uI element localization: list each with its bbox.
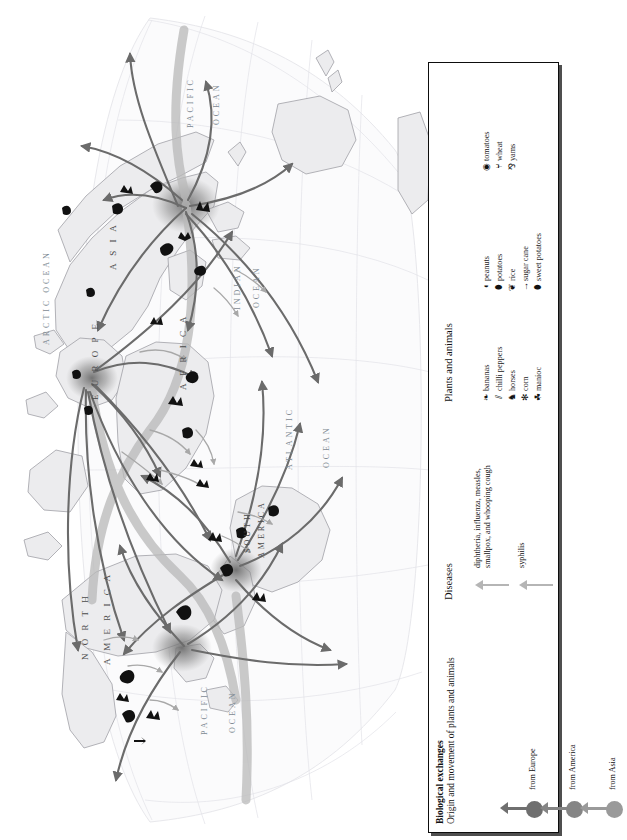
legend-disease-label-1a: diphtheria, influenza, measles, xyxy=(473,468,483,568)
legend-title: Biological exchanges xyxy=(435,657,446,824)
origin-arrow-shaft-europe xyxy=(507,807,529,810)
world-map: ARCTIC OCEANPACIFICOCEANINDIANOCEANATLAN… xyxy=(0,0,430,840)
legend-disease-entry-1[interactable]: diphtheria, influenza, measles, smallpox… xyxy=(475,370,515,590)
yam-icon: ⅋ xyxy=(507,161,517,172)
disease-arrow-shaft-2 xyxy=(525,584,553,586)
sweet-potato-icon: ⬮ xyxy=(533,281,544,292)
origin-arrow-head-america xyxy=(540,803,548,815)
legend-disease-label-2a: syphilis xyxy=(517,543,527,568)
legend-content: Biological exchanges Origin and movement… xyxy=(429,64,557,832)
legend-origin-label-asia: from Asia xyxy=(608,757,618,790)
legend-box: Biological exchanges Origin and movement… xyxy=(428,62,559,833)
legend-origin-asia[interactable]: from Asia xyxy=(601,668,627,818)
legend-plants-heading: Plants and animals xyxy=(443,323,454,402)
manioc-icon: ☘ xyxy=(533,391,543,402)
legend-origin-europe[interactable]: from Europe xyxy=(521,668,551,818)
legend-plant-label: yams xyxy=(508,144,517,161)
legend-plant-item[interactable]: ⬮sweet potatoes xyxy=(527,233,545,292)
origin-arrow-head-europe xyxy=(500,803,508,815)
legend-disease-entry-2[interactable]: syphilis xyxy=(519,370,559,590)
origin-arrow-head-asia xyxy=(580,803,588,815)
legend-plant-item[interactable]: ⅋yams xyxy=(501,144,519,172)
legend-plant-label: manioc xyxy=(534,367,543,391)
legend-origin-label-america: from America xyxy=(568,744,578,790)
origin-arrow-shaft-america xyxy=(547,807,569,810)
legend-plant-label: sweet potatoes xyxy=(534,233,543,281)
origin-arrow-shaft-asia xyxy=(587,807,609,810)
legend-origin-america[interactable]: from America xyxy=(561,668,591,818)
legend-diseases-heading: Diseases xyxy=(443,563,454,600)
legend-origin-label-europe: from Europe xyxy=(528,748,538,790)
legend-disease-label-1b: smallpox, and whooping cough xyxy=(483,465,493,568)
legend-plant-item[interactable]: ☘manioc xyxy=(527,367,545,402)
map-graphic xyxy=(0,0,430,840)
disease-arrow-shaft-1 xyxy=(481,584,509,586)
legend-subtitle: Origin and movement of plants and animal… xyxy=(446,657,457,824)
